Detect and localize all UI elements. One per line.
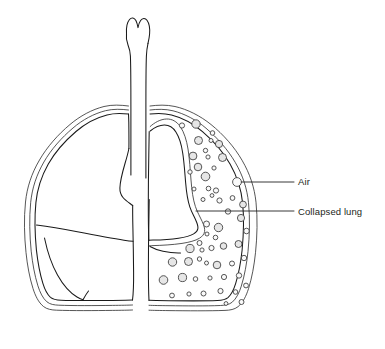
air-bubble (219, 154, 227, 162)
left-lung-oblique-fissure (37, 225, 134, 241)
air-bubble (197, 257, 201, 261)
normal-lung-group (24, 105, 133, 310)
left-lung-surface (35, 113, 133, 300)
collapsed-lung-label: Collapsed lung (298, 207, 362, 217)
air-bubble (230, 261, 235, 266)
air-bubble (192, 120, 200, 128)
air-bubble (209, 139, 213, 143)
air-bubble (240, 201, 247, 208)
air-bubble (212, 166, 216, 170)
air-bubble (230, 196, 235, 201)
air-bubble (218, 288, 223, 293)
air-bubble (179, 123, 184, 128)
left-lung-pleura-middle (30, 109, 133, 305)
air-bubble (201, 291, 206, 296)
air-bubble (239, 300, 244, 305)
air-bubble (192, 187, 196, 191)
trachea-left-wall (126, 34, 131, 176)
air-bubble (225, 209, 230, 214)
air-bubble (204, 221, 210, 227)
air-bubble-air-label-target (233, 178, 242, 187)
air-bubble (206, 155, 210, 159)
air-bubble (201, 198, 205, 202)
trachea-group (126, 18, 149, 178)
air-bubble (201, 172, 210, 181)
air-bubble (178, 273, 186, 281)
air-bubbles-group (159, 120, 249, 306)
air-bubble (213, 235, 218, 240)
air-bubble (187, 292, 191, 296)
air-bubble (213, 188, 218, 193)
pneumothorax-diagram: Air Collapsed lung (0, 0, 385, 349)
air-bubble (205, 232, 209, 236)
air-bubble (200, 248, 204, 252)
left-lung-lower-lobe-crease (45, 238, 84, 300)
air-bubble (188, 170, 192, 174)
air-bubble (217, 198, 222, 203)
air-bubble (210, 131, 215, 136)
air-bubble (208, 276, 212, 280)
air-label: Air (298, 177, 310, 187)
air-bubble (235, 241, 242, 248)
air-bubble (210, 194, 214, 198)
left-lung-base-crease (83, 291, 89, 300)
air-bubble (170, 293, 175, 298)
air-bubble (195, 137, 203, 145)
air-bubble (209, 245, 214, 250)
trachea-right-wall (146, 43, 148, 178)
collapsed-lung-base-crease (150, 247, 181, 254)
air-bubble (220, 243, 227, 250)
left-lung-pleura-outer (24, 105, 132, 310)
air-bubble (203, 148, 207, 152)
air-bubble (224, 302, 228, 306)
larynx-outline (126, 18, 149, 43)
air-bubble (214, 223, 222, 231)
lung-illustration-canvas (0, 0, 385, 349)
air-bubble (168, 258, 176, 266)
air-bubble (193, 277, 198, 282)
air-bubble (237, 214, 244, 221)
left-lung-medial-border (133, 206, 134, 301)
air-bubble (159, 276, 168, 285)
air-bubble (241, 255, 246, 260)
air-bubble (244, 228, 250, 234)
air-bubble (189, 152, 197, 160)
air-bubble (197, 241, 202, 246)
air-bubble (185, 258, 193, 266)
air-bubble (186, 244, 194, 252)
air-bubble (236, 273, 241, 278)
air-bubble (206, 186, 211, 191)
air-bubble (221, 274, 226, 279)
air-bubble (213, 261, 221, 269)
collapsed-lung-surface (149, 125, 198, 240)
air-bubble (194, 163, 202, 171)
air-bubble (244, 283, 249, 288)
air-bubble (205, 261, 209, 265)
air-bubble (233, 290, 238, 295)
air-bubble (215, 140, 222, 147)
